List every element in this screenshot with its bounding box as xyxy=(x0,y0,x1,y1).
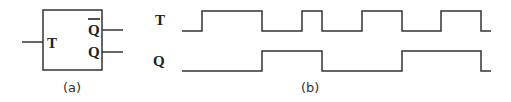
signal-t-label: T xyxy=(155,12,165,28)
output-qbar-label: Q xyxy=(88,22,100,38)
signal-q-label: Q xyxy=(153,53,165,69)
input-t-label: T xyxy=(47,35,57,51)
signal-q-waveform xyxy=(182,51,491,71)
signal-t-waveform xyxy=(182,11,491,31)
t-flipflop-figure: T Q Q (a) T Q (b) xyxy=(0,0,511,102)
timing-diagram: T Q (b) xyxy=(153,11,491,95)
caption-a: (a) xyxy=(63,80,81,95)
caption-b: (b) xyxy=(301,80,319,95)
flipflop-block: T Q Q (a) xyxy=(22,10,123,95)
output-q-label: Q xyxy=(88,44,100,60)
